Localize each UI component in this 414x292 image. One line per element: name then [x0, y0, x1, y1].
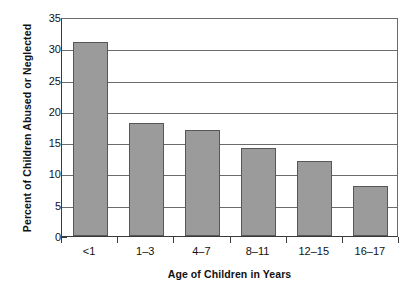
gridline	[62, 82, 397, 83]
x-axis-tick-label: <1	[83, 245, 96, 257]
bar-chart-figure: Percent of Children Abused or Neglected …	[0, 0, 414, 292]
bar	[353, 186, 388, 236]
gridline	[62, 113, 397, 114]
x-axis-tick-label: 16–17	[355, 245, 386, 257]
y-axis-tick-label: 25	[19, 75, 61, 87]
bar	[241, 148, 276, 236]
bar	[297, 161, 332, 236]
y-axis-tick-label: 35	[19, 12, 61, 24]
y-axis-tick-label: 5	[19, 200, 61, 212]
x-axis-tick-label: 4–7	[192, 245, 210, 257]
y-axis-tick-label: 30	[19, 43, 61, 55]
x-axis-tick-mark	[342, 237, 343, 243]
gridline	[62, 144, 397, 145]
gridline	[62, 207, 397, 208]
y-axis-tick-label: 20	[19, 106, 61, 118]
x-axis-tick-label: 1–3	[136, 245, 154, 257]
x-axis-tick-label: 12–15	[298, 245, 329, 257]
x-axis-tick-mark	[286, 237, 287, 243]
y-axis-tick-group: 05101520253035	[8, 18, 61, 237]
gridline	[62, 175, 397, 176]
gridline	[62, 50, 397, 51]
bar	[185, 130, 220, 236]
x-axis-title: Age of Children in Years	[61, 268, 398, 280]
y-axis-tick-label: 15	[19, 137, 61, 149]
y-axis-tick-label: 10	[19, 168, 61, 180]
x-axis-tick-mark	[117, 237, 118, 243]
x-axis-tick-mark	[398, 237, 399, 243]
x-axis-tick-mark	[61, 237, 62, 243]
x-axis-tick-group	[61, 237, 398, 244]
bar	[129, 123, 164, 236]
y-axis-tick-label: 0	[19, 231, 61, 243]
x-axis-tick-mark	[230, 237, 231, 243]
bar	[73, 42, 108, 236]
x-axis-tick-mark	[173, 237, 174, 243]
x-axis-tick-label: 8–11	[246, 245, 270, 257]
plot-area	[61, 18, 398, 237]
x-axis-tick-label-group: <11–34–78–1112–1516–17	[61, 245, 398, 261]
